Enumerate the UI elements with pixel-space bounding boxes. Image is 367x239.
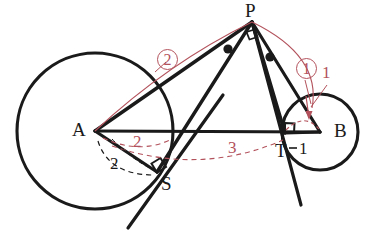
geometry-figure: P A B S T 2 2 3 1 1 1 2 (0, 0, 367, 239)
point-label-B: B (334, 121, 347, 140)
red-length-label-A: 2 (133, 133, 142, 150)
figure-canvas (0, 0, 367, 239)
segment-AS (95, 131, 157, 172)
circled-label-one: 1 (296, 58, 317, 79)
angle-dot-marker-right (265, 52, 274, 61)
right-angle-mark-P (247, 30, 258, 40)
point-label-A: A (72, 120, 86, 139)
red-marker-label-one: 1 (322, 64, 331, 81)
length-label-AS: 2 (110, 155, 119, 172)
point-label-P: P (245, 1, 256, 20)
black-dashed-arc-two (98, 141, 152, 175)
length-label-BT: 1 (299, 140, 308, 157)
point-label-S: S (161, 174, 172, 193)
circled-label-two: 2 (157, 49, 178, 70)
red-length-label-AB: 3 (228, 139, 237, 156)
segment-AP (95, 22, 252, 131)
segment-PS (157, 22, 252, 172)
point-label-T: T (275, 141, 287, 160)
angle-dot-marker-left (223, 44, 232, 53)
leader-line-circled-one (305, 80, 311, 104)
